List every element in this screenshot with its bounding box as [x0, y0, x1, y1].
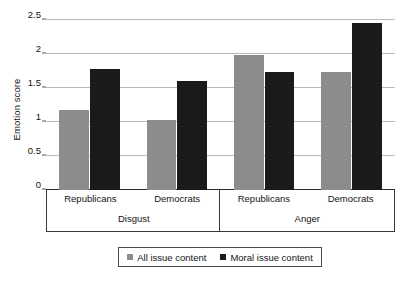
bar — [59, 110, 89, 190]
category-label: Republicans — [221, 193, 308, 204]
category-axis-band: RepublicansDemocratsRepublicansDemocrats… — [46, 190, 395, 232]
legend-label-all-issue-content: All issue content — [137, 252, 206, 263]
category-label: Democrats — [134, 193, 221, 204]
bar — [90, 69, 120, 190]
bar — [177, 81, 207, 190]
bar — [147, 120, 177, 190]
bar — [352, 23, 382, 190]
legend-entry-all-issue-content: All issue content — [127, 252, 206, 263]
y-tick-label: 2.5 — [28, 9, 41, 20]
bar — [234, 55, 264, 190]
y-tick-label: 0.5 — [28, 145, 41, 156]
category-label: Republicans — [47, 193, 134, 204]
chart-legend: All issue content Moral issue content — [118, 247, 322, 267]
legend-entry-moral-issue-content: Moral issue content — [220, 252, 312, 263]
bar — [321, 72, 351, 190]
bars-layer — [46, 20, 395, 190]
category-label: Democrats — [307, 193, 394, 204]
group-label: Disgust — [47, 213, 221, 224]
y-tick-label: 1.5 — [28, 77, 41, 88]
legend-swatch-all-issue-content — [127, 254, 133, 260]
emotion-score-bar-chart: Emotion score 00.511.522.5 RepublicansDe… — [0, 0, 414, 282]
y-axis-title: Emotion score — [11, 50, 22, 170]
y-tick-label: 1 — [36, 111, 41, 122]
legend-label-moral-issue-content: Moral issue content — [230, 252, 312, 263]
plot-area: 00.511.522.5 — [46, 20, 395, 190]
y-tick-label: 2 — [36, 43, 41, 54]
bar — [265, 72, 295, 190]
group-label: Anger — [221, 213, 395, 224]
y-tick-label: 0 — [36, 179, 41, 190]
legend-swatch-moral-issue-content — [220, 254, 226, 260]
